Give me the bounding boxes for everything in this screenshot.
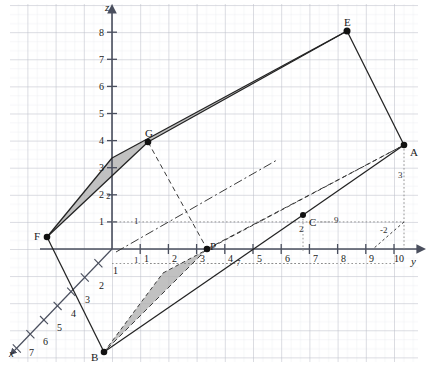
point-marker-C [300, 212, 306, 218]
axis-label-x: x [9, 348, 14, 359]
y-tick-6: 6 [285, 254, 290, 264]
z-tick-5: 5 [99, 109, 104, 119]
annotation-minus-2: -2 [380, 226, 388, 235]
z-tick-3: 3 [99, 163, 104, 173]
annotation-guide-9: 9 [334, 216, 339, 225]
axis-label-y: y [411, 256, 416, 267]
y-tick-7: 7 [313, 254, 318, 264]
x-tick-2: 2 [99, 281, 104, 291]
axis-label-z: z [105, 2, 109, 13]
annotation-guide-2: 2 [299, 225, 304, 234]
z-tick-1: 1 [99, 217, 104, 227]
x-tick-4: 4 [71, 309, 76, 319]
point-label-F: F [34, 231, 40, 242]
x-tick-5: 5 [57, 323, 62, 333]
annotation-height-3: 3 [398, 171, 403, 180]
y-tick-5: 5 [257, 254, 262, 264]
point-label-G: G [145, 128, 153, 139]
x-tick-3: 3 [85, 295, 90, 305]
point-label-B: B [91, 352, 98, 363]
point-marker-E [344, 28, 351, 35]
y-tick-1: 1 [144, 254, 149, 264]
point-label-E: E [344, 17, 351, 28]
point-label-A: A [410, 147, 418, 158]
y-tick-9: 9 [369, 254, 374, 264]
z-tick-8: 8 [99, 28, 104, 38]
y-tick-4: 4 [228, 254, 233, 264]
y-tick-10: 10 [394, 254, 404, 264]
point-marker-A [401, 142, 408, 149]
y-tick-3: 3 [200, 254, 205, 264]
point-label-C: C [309, 217, 316, 228]
annotation-guide-7: 7 [236, 259, 241, 268]
z-tick-4: 4 [99, 136, 104, 146]
z-tick-6: 6 [99, 82, 104, 92]
point-marker-B [101, 349, 108, 356]
point-label-P: P [210, 241, 216, 252]
annotation-guide-1-upper: 1 [134, 217, 139, 226]
y-tick-2: 2 [172, 254, 177, 264]
x-tick-7: 7 [29, 348, 34, 358]
x-tick-1: 1 [113, 266, 118, 276]
x-tick-6: 6 [43, 337, 48, 347]
y-tick-8: 8 [341, 254, 346, 264]
diagram-canvas: z y x 1 2 3 4 5 6 7 8 1 2 3 4 5 6 7 8 9 … [0, 0, 426, 369]
z-tick-2: 2 [99, 190, 104, 200]
point-marker-G [145, 139, 152, 146]
annotation-guide-2-left: 2 [106, 192, 111, 201]
annotation-guide-1-lower: 1 [134, 256, 139, 265]
z-tick-7: 7 [99, 55, 104, 65]
point-marker-F [44, 234, 51, 241]
coordinate-plot [0, 0, 426, 369]
